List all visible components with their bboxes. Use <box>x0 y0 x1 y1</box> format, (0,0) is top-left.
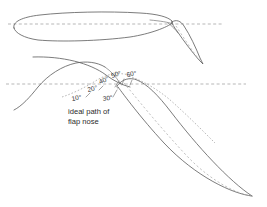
angle-label-30: 30° <box>102 94 113 102</box>
upper-main-trailing-edge <box>150 20 173 24</box>
upper-flap-camber-line <box>176 26 201 62</box>
angle-label-50: 50° <box>110 69 122 79</box>
diagram-canvas: 10° 20° 30° 40° 50° 60° ideal path of fl… <box>0 0 267 207</box>
angle-label-60: 60° <box>126 69 137 78</box>
angle-tick-30 <box>113 90 117 97</box>
angle-tick-10 <box>86 93 90 97</box>
angle-label-10: 10° <box>71 93 82 102</box>
lower-flap-camber-line <box>124 83 252 196</box>
upper-main-airfoil-outline <box>14 12 172 41</box>
flap-deflection-diagram: 10° 20° 30° 40° 50° 60° ideal path of fl… <box>0 0 267 207</box>
lower-flap-upper-surface <box>117 79 252 196</box>
angle-label-20: 20° <box>87 84 99 93</box>
caption-group: ideal path of flap nose <box>68 107 110 126</box>
angle-tick-50 <box>122 79 124 85</box>
upper-view-group <box>8 12 222 64</box>
lower-view-group: 10° 20° 30° 40° 50° 60° ideal path of fl… <box>6 57 252 196</box>
caption-line-1: ideal path of <box>68 107 110 116</box>
angle-tick-20 <box>99 86 103 90</box>
caption-line-2: flap nose <box>68 117 99 126</box>
flap-nose-path-extension <box>129 76 215 143</box>
